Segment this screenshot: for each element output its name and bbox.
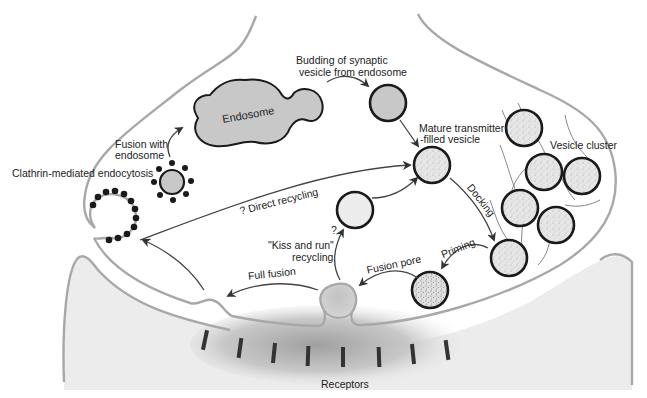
coated-vesicle (151, 160, 194, 203)
receptors-label: Receptors (321, 378, 369, 390)
vesicle-cluster-label: Vesicle cluster (550, 139, 618, 151)
clathrin-coated-pit (90, 188, 140, 244)
vesicle-cluster (502, 110, 600, 243)
postsynaptic-cell (64, 254, 632, 390)
arrow-to-mature (400, 120, 418, 146)
priming-label: Priming (439, 236, 477, 261)
clathrin-label: Clathrin-mediated endocytosis (12, 167, 153, 179)
synaptic-vesicle-cycle-diagram: Endosome (0, 0, 647, 398)
budded-vesicle (370, 85, 406, 121)
arrow-kiss-and-run (334, 230, 343, 280)
arrow-to-endocytosis (143, 240, 204, 290)
direct-recycling-label: ? Direct recycling (238, 185, 319, 216)
arrow-fusion-with-endosome (168, 128, 182, 157)
full-fusion-label: Full fusion (247, 265, 296, 282)
arrow-full-fusion (228, 284, 318, 296)
budding-label-1: Budding of synaptic (296, 54, 388, 66)
docked-vesicle (491, 240, 527, 276)
kiss-question-label: ? (331, 224, 337, 236)
fusion-endosome-label-2: endosome (115, 149, 164, 161)
kiss-label-2: recycling (292, 251, 334, 263)
mature-vesicle (414, 147, 450, 183)
mature-label-2: -filled vesicle (420, 133, 480, 145)
kiss-run-vesicle (337, 192, 373, 228)
budding-label-2: vesicle from endosome (299, 66, 407, 78)
endosome: Endosome (194, 80, 322, 147)
arrow-kiss-to-mature (372, 178, 417, 198)
kiss-label-1: "Kiss and run" (268, 239, 334, 251)
fusion-pore-label: Fusion pore (365, 252, 422, 275)
